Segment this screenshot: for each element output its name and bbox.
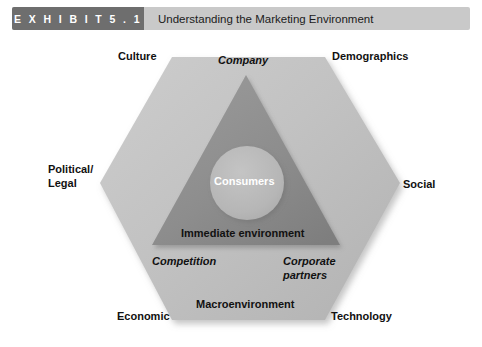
- label-political-legal-line2: Legal: [48, 177, 93, 191]
- label-corporate-partners-line2: partners: [283, 269, 353, 283]
- label-economic: Economic: [117, 310, 170, 324]
- label-demographics: Demographics: [332, 50, 408, 64]
- label-company: Company: [218, 54, 268, 68]
- label-competition: Competition: [152, 255, 216, 269]
- label-political-legal-line1: Political/: [48, 163, 93, 177]
- label-consumers: Consumers: [214, 175, 275, 189]
- label-social: Social: [403, 178, 435, 192]
- label-corporate-partners: Corporate partners: [283, 255, 353, 283]
- exhibit-header: E X H I B I T 5 . 1 Understanding the Ma…: [12, 7, 470, 30]
- label-immediate-environment: Immediate environment: [181, 227, 304, 241]
- marketing-environment-diagram: Culture Demographics Political/ Legal So…: [0, 30, 482, 347]
- label-technology: Technology: [331, 310, 392, 324]
- label-culture: Culture: [118, 50, 157, 64]
- exhibit-title: Understanding the Marketing Environment: [144, 7, 470, 30]
- exhibit-badge-label: E X H I B I T 5 . 1: [14, 13, 142, 25]
- label-political-legal: Political/ Legal: [48, 163, 93, 191]
- exhibit-page: E X H I B I T 5 . 1 Understanding the Ma…: [0, 0, 482, 347]
- exhibit-number-badge: E X H I B I T 5 . 1: [12, 7, 144, 30]
- label-corporate-partners-line1: Corporate: [283, 255, 353, 269]
- label-macroenvironment: Macroenvironment: [196, 298, 294, 312]
